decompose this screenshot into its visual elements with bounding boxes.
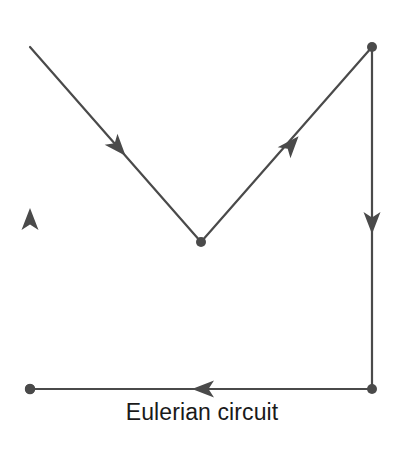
node-group: [25, 42, 377, 394]
node-top-left: [196, 237, 206, 247]
eulerian-circuit-figure: Eulerian circuit: [0, 0, 404, 450]
arrowhead-group: [22, 131, 381, 398]
node-bottom-left: [25, 384, 35, 394]
node-top-right: [367, 42, 377, 52]
edge-group: [30, 47, 372, 389]
graph-canvas: [0, 0, 404, 450]
arrowhead-up-right-icon: [278, 131, 305, 159]
arrowhead-up-icon: [22, 208, 39, 230]
figure-caption: Eulerian circuit: [0, 398, 404, 426]
node-center-apex: [367, 384, 377, 394]
